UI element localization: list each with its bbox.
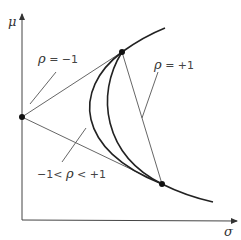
rho-symbol: ρ xyxy=(153,57,162,72)
leader-rho-pos-one xyxy=(142,72,158,118)
y-axis-label: μ xyxy=(8,14,16,29)
rho-range-prefix: −1< xyxy=(37,168,66,181)
rho-value: = −1 xyxy=(46,53,78,66)
asset-point-bottom xyxy=(159,181,165,187)
asset-point-top xyxy=(119,49,125,55)
rho-value: = +1 xyxy=(162,59,194,72)
efficient-frontier-lower xyxy=(162,184,213,202)
rho-range-suffix: < +1 xyxy=(74,168,106,181)
leader-rho-between xyxy=(62,128,86,162)
asset-point-left xyxy=(19,114,25,120)
correlation-curve-intermediate-1 xyxy=(90,52,162,184)
label-rho-between: −1< ρ < +1 xyxy=(37,166,106,181)
leader-rho-neg-one xyxy=(30,72,56,104)
label-rho-neg-one: ρ = −1 xyxy=(37,51,78,66)
efficient-frontier-upper xyxy=(122,28,165,52)
label-rho-pos-one: ρ = +1 xyxy=(153,57,194,72)
x-axis xyxy=(22,220,237,221)
rho-symbol: ρ xyxy=(65,166,74,181)
rho-symbol: ρ xyxy=(37,51,46,66)
portfolio-diagram: μ σ ρ = −1 ρ = +1 −1< ρ < +1 xyxy=(0,0,241,240)
x-axis-label: σ xyxy=(224,224,234,239)
